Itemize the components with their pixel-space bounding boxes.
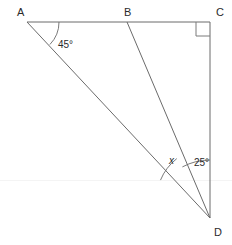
angle-label-45-degrees: 45°: [58, 39, 73, 50]
geometry-figure: A B C D 45° x 25°: [0, 0, 232, 245]
segment-AD: [27, 22, 210, 218]
right-angle-marker-at-C: [196, 22, 210, 36]
angle-label-x: x: [168, 155, 175, 166]
vertex-label-A: A: [17, 6, 25, 18]
angle-label-25-degrees: 25°: [194, 157, 209, 168]
vertex-label-B: B: [124, 6, 131, 18]
geometry-diagram-canvas: A B C D 45° x 25°: [0, 0, 232, 245]
vertex-label-D: D: [214, 226, 222, 238]
vertex-label-C: C: [216, 6, 224, 18]
segment-BD: [127, 22, 210, 218]
